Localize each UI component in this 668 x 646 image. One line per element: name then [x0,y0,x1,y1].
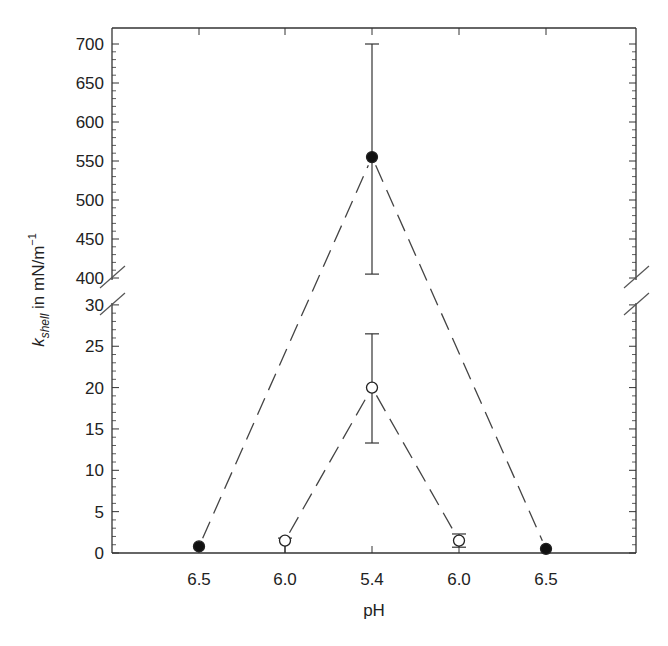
y-tick-label: 15 [85,420,104,439]
data-point [367,382,378,393]
data-point [194,541,205,552]
series-open-circle [278,334,466,553]
data-point [541,543,552,554]
y-tick-label: 650 [76,74,104,93]
y-tick-label: 550 [76,152,104,171]
series-filled-circle [194,44,552,554]
y-tick-label: 20 [85,379,104,398]
y-tick-label: 400 [76,269,104,288]
axis-break-marks [100,266,649,315]
y-axis-ticks: 400450500550600650700051015202530 [76,35,636,563]
x-tick-label: 6.0 [447,570,471,589]
y-tick-label: 700 [76,35,104,54]
x-tick-label: 6.5 [534,570,558,589]
data-series [194,44,552,554]
y-tick-label: 0 [95,544,104,563]
x-tick-label: 5.4 [360,570,384,589]
data-point [454,535,465,546]
data-point [367,152,378,163]
data-point [280,535,291,546]
y-tick-label: 450 [76,230,104,249]
x-axis-title: pH [363,601,385,620]
y-tick-label: 25 [85,337,104,356]
plot-frame [112,28,636,553]
y-tick-label: 10 [85,461,104,480]
x-tick-label: 6.0 [273,570,297,589]
y-tick-label: 500 [76,191,104,210]
y-tick-label: 600 [76,113,104,132]
y-axis-title: kshell in mN/m−1 [26,233,52,347]
y-tick-label: 5 [95,503,104,522]
y-tick-label: 30 [85,296,104,315]
chart: 400450500550600650700051015202530 6.56.0… [0,0,668,646]
x-tick-label: 6.5 [187,570,211,589]
